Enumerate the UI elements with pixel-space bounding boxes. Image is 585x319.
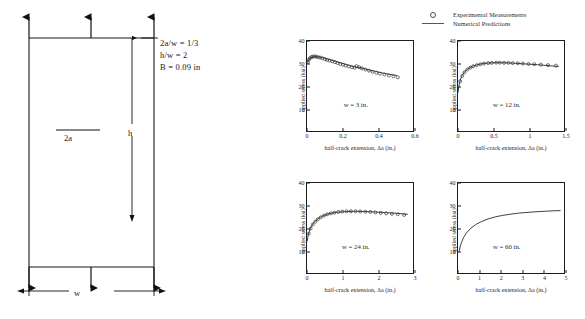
specimen-drawing [0, 0, 290, 319]
load-arrows-bottom [29, 267, 154, 288]
figure-root: 2a h w 2a/w = 1/3 h/w = 2 B = 0.09 in Ex… [0, 0, 585, 319]
panel-label: w = 60 in. [493, 243, 521, 250]
plot-data-layer [307, 183, 415, 275]
x-tick-label: 1 [478, 275, 481, 281]
legend: Experimental Measurements Numerical Pred… [418, 10, 585, 28]
x-axis-title: half-crack extension, Δa (in.) [306, 145, 414, 151]
x-tick-label: 1 [342, 275, 345, 281]
legend-label-experimental: Experimental Measurements [453, 11, 526, 18]
x-tick-label: 0.4 [375, 133, 383, 139]
series-point-experimental [396, 76, 399, 79]
panel-label: w = 24 in. [342, 243, 370, 250]
height-label: h [128, 128, 132, 138]
x-tick-label: 4 [543, 275, 546, 281]
x-tick-label: 3 [414, 275, 417, 281]
x-axis-title: half-crack extension, Δa (in.) [457, 287, 565, 293]
panel-label: w = 3 in. [344, 101, 368, 108]
legend-item-experimental: Experimental Measurements [418, 10, 585, 19]
chart-panel-w60: 10203040012345w = 60 in.half-crack exten… [434, 176, 580, 309]
crack-length-label: 2a [64, 133, 72, 143]
plot-data-layer [458, 41, 566, 133]
x-axis-title: half-crack extension, Δa (in.) [457, 145, 565, 151]
x-tick-label: 3 [521, 275, 524, 281]
chart-panel-w24: 102030400123w = 24 in.half-crack extensi… [283, 176, 429, 309]
x-tick-label: 5 [565, 275, 568, 281]
load-arrows-top [29, 17, 154, 38]
y-axis-title: applied stress (ksi) [451, 43, 457, 135]
x-axis-title: half-crack extension, Δa (in.) [306, 287, 414, 293]
y-axis-title: applied stress (ksi) [300, 43, 306, 135]
panel-label: w = 12 in. [493, 101, 521, 108]
x-tick-label: 0.2 [339, 133, 347, 139]
plot-area: 10203040012345w = 60 in. [457, 182, 565, 274]
x-tick-label: 1.5 [562, 133, 570, 139]
chart-grid: 1020304000.20.40.6w = 3 in.half-crack ex… [283, 34, 585, 319]
specimen-diagram: 2a h w 2a/w = 1/3 h/w = 2 B = 0.09 in [0, 0, 290, 319]
open-circle-icon [418, 12, 448, 18]
specimen-note-crack-ratio: 2a/w = 1/3 [160, 38, 198, 48]
legend-label-numerical: Numerical Predictions [453, 20, 511, 27]
x-tick-label: 2 [500, 275, 503, 281]
width-label: w [74, 288, 80, 298]
chart-panel-w3: 1020304000.20.40.6w = 3 in.half-crack ex… [283, 34, 429, 167]
x-tick-label: 1 [529, 133, 532, 139]
plate-outline [29, 38, 154, 267]
series-point-experimental [379, 211, 382, 214]
y-axis-title: applied stress (ksi) [451, 185, 457, 277]
specimen-note-aspect-ratio: h/w = 2 [160, 50, 187, 60]
x-tick-label: 0.6 [411, 133, 419, 139]
plot-area: 1020304000.20.40.6w = 3 in. [306, 40, 414, 132]
chart-panel-w12: 1020304000.511.5w = 12 in.half-crack ext… [434, 34, 580, 167]
series-line-numerical [458, 63, 559, 93]
plot-data-layer [307, 41, 415, 133]
plot-data-layer [458, 183, 566, 275]
x-tick-label: 0.5 [490, 133, 498, 139]
legend-item-numerical: Numerical Predictions [418, 19, 585, 28]
specimen-note-thickness: B = 0.09 in [160, 62, 201, 72]
plot-area: 102030400123w = 24 in. [306, 182, 414, 274]
y-axis-title: applied stress (ksi) [300, 185, 306, 277]
x-tick-label: 2 [378, 275, 381, 281]
line-marker-icon [418, 23, 448, 24]
plot-area: 1020304000.511.5w = 12 in. [457, 40, 565, 132]
series-line-numerical [307, 57, 397, 76]
